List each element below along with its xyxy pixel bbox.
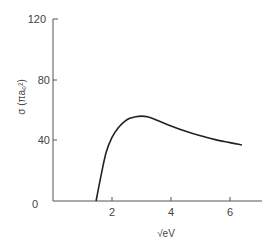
x-tick-6: 6 [227,206,233,218]
data-curve [96,116,242,201]
y-tick-80: 80 [38,74,50,86]
y-tick-40: 40 [38,134,50,146]
x-axis-label: √eV [157,228,175,239]
chart: 120 80 40 0 σ (πa₀²) 2 4 6 √eV [0,0,273,245]
y-tick-0: 0 [32,198,38,210]
x-axis: 2 4 6 √eV [53,197,262,239]
y-axis: 120 80 40 0 σ (πa₀²) [16,13,58,210]
y-axis-label: σ (πa₀²) [16,79,27,115]
x-tick-2: 2 [109,206,115,218]
x-tick-4: 4 [168,206,174,218]
y-tick-120: 120 [28,13,46,25]
